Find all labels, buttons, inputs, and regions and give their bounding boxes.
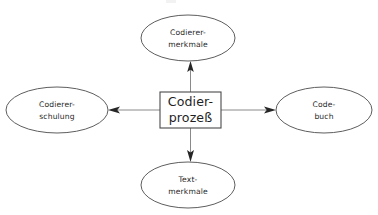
node-code-buch-ellipse: [276, 87, 372, 133]
node-code-buch[interactable]: Code- buch: [276, 87, 372, 133]
node-codierprozess-line2: prozeß: [169, 110, 213, 125]
node-text-merkmale[interactable]: Text- merkmale: [141, 162, 235, 208]
node-text-merkmale-line2: merkmale: [168, 187, 208, 196]
node-codierprozess[interactable]: Codier- prozeß: [160, 92, 221, 128]
node-codierer-schulung[interactable]: Codierer- schulung: [6, 87, 108, 133]
node-code-buch-line2: buch: [314, 112, 333, 121]
concept-diagram: Codierer- merkmale Codierer- schulung Co…: [0, 0, 378, 215]
node-codierprozess-line1: Codier-: [168, 94, 213, 109]
node-codierer-schulung-ellipse: [6, 87, 108, 133]
node-codierer-merkmale-ellipse: [141, 15, 235, 61]
node-codierer-schulung-line2: schulung: [39, 112, 75, 121]
arrow-center-to-right: [221, 106, 276, 113]
arrow-center-to-top: [187, 61, 194, 92]
node-text-merkmale-line1: Text-: [178, 175, 198, 184]
diagram-canvas: Codierer- merkmale Codierer- schulung Co…: [0, 0, 378, 215]
node-codierer-merkmale-line2: merkmale: [168, 40, 208, 49]
node-text-merkmale-ellipse: [141, 162, 235, 208]
arrow-center-to-left: [108, 106, 160, 113]
node-codierer-merkmale[interactable]: Codierer- merkmale: [141, 15, 235, 61]
node-code-buch-line1: Code-: [313, 100, 336, 109]
node-codierer-merkmale-line1: Codierer-: [170, 28, 206, 37]
arrow-center-to-bottom: [187, 128, 194, 162]
node-codierer-schulung-line1: Codierer-: [39, 100, 75, 109]
